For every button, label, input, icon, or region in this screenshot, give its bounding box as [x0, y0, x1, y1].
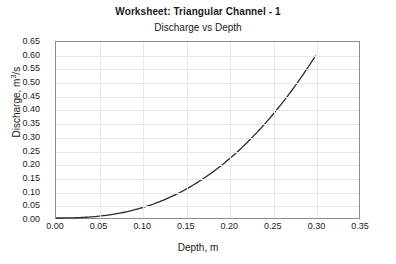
y-axis-label-suffix: /s: [11, 67, 22, 75]
x-tick-label: 0.20: [209, 222, 249, 231]
plot-area: [55, 41, 360, 219]
gridline-vertical: [230, 42, 231, 218]
chart-title: Worksheet: Triangular Channel - 1: [0, 6, 396, 17]
x-tick-label: 0.00: [35, 222, 75, 231]
chart-container: Worksheet: Triangular Channel - 1 Discha…: [0, 0, 396, 264]
y-tick-label: 0.05: [0, 201, 40, 210]
gridline-vertical: [187, 42, 188, 218]
y-tick-label: 0.10: [0, 188, 40, 197]
gridline-horizontal: [56, 124, 359, 125]
x-axis-label: Depth, m: [0, 242, 396, 253]
y-axis-label: Discharge, m3/s: [10, 42, 22, 162]
gridline-vertical: [274, 42, 275, 218]
gridline-vertical: [143, 42, 144, 218]
x-tick-label: 0.25: [253, 222, 293, 231]
gridline-horizontal: [56, 110, 359, 111]
gridline-horizontal: [56, 138, 359, 139]
gridline-horizontal: [56, 206, 359, 207]
y-tick-label: 0.15: [0, 174, 40, 183]
chart-subtitle: Discharge vs Depth: [0, 22, 396, 33]
x-tick-label: 0.30: [296, 222, 336, 231]
gridline-horizontal: [56, 165, 359, 166]
gridline-vertical: [317, 42, 318, 218]
y-tick-label: 0.00: [0, 215, 40, 224]
gridline-vertical: [100, 42, 101, 218]
gridline-horizontal: [56, 97, 359, 98]
y-axis-label-exponent: 3: [10, 75, 17, 79]
x-tick-label: 0.05: [79, 222, 119, 231]
y-axis-label-prefix: Discharge, m: [11, 79, 22, 138]
gridline-horizontal: [56, 69, 359, 70]
x-tick-label: 0.15: [166, 222, 206, 231]
gridline-horizontal: [56, 193, 359, 194]
gridline-horizontal: [56, 179, 359, 180]
gridline-horizontal: [56, 56, 359, 57]
gridline-horizontal: [56, 152, 359, 153]
gridline-horizontal: [56, 83, 359, 84]
x-tick-label: 0.35: [340, 222, 380, 231]
x-tick-label: 0.10: [122, 222, 162, 231]
